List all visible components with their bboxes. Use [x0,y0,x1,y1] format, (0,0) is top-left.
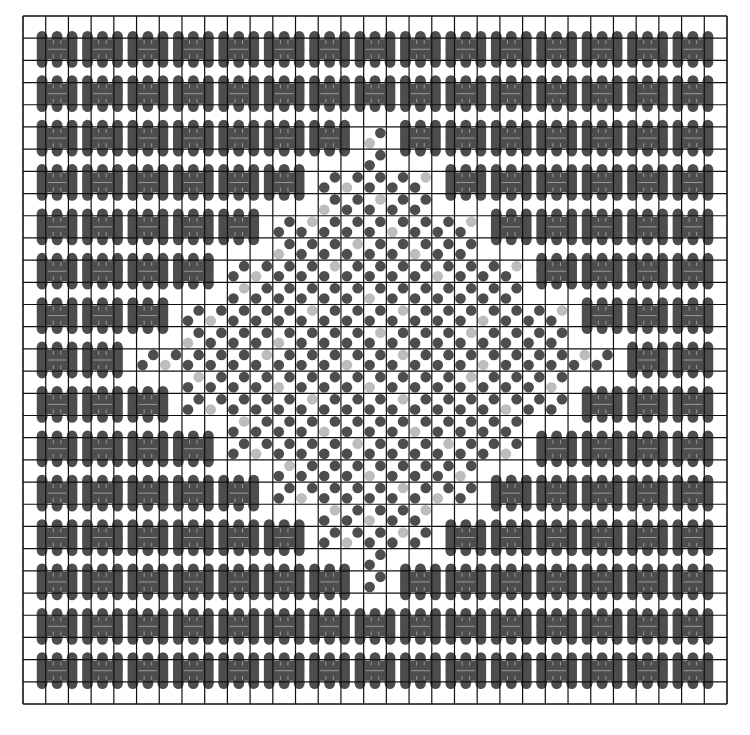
grid-cell[interactable] [159,482,182,504]
grid-cell[interactable] [409,482,432,504]
grid-cell[interactable] [227,438,250,460]
grid-cell[interactable] [114,38,137,60]
grid-cell[interactable] [591,349,614,371]
grid-cell[interactable] [568,260,591,282]
grid-cell[interactable] [296,305,319,327]
grid-cell[interactable] [500,549,523,571]
grid-cell[interactable] [318,127,341,149]
grid-cell[interactable] [46,105,69,127]
grid-cell[interactable] [68,682,91,704]
grid-cell[interactable] [318,327,341,349]
grid-cell[interactable] [682,504,705,526]
grid-cell[interactable] [682,194,705,216]
grid-cell[interactable] [182,216,205,238]
grid-cell[interactable] [114,127,137,149]
grid-cell[interactable] [68,327,91,349]
grid-cell[interactable] [318,682,341,704]
grid-cell[interactable] [114,60,137,82]
grid-cell[interactable] [523,438,546,460]
grid-cell[interactable] [273,16,296,38]
grid-cell[interactable] [500,415,523,437]
grid-cell[interactable] [273,105,296,127]
grid-cell[interactable] [523,216,546,238]
grid-cell[interactable] [477,615,500,637]
grid-cell[interactable] [432,549,455,571]
grid-cell[interactable] [659,305,682,327]
grid-cell[interactable] [296,549,319,571]
grid-cell[interactable] [318,260,341,282]
grid-cell[interactable] [68,549,91,571]
grid-cell[interactable] [682,482,705,504]
grid-cell[interactable] [23,83,46,105]
grid-cell[interactable] [568,16,591,38]
grid-cell[interactable] [477,305,500,327]
grid-cell[interactable] [704,305,727,327]
grid-cell[interactable] [159,60,182,82]
grid-cell[interactable] [364,371,387,393]
grid-cell[interactable] [205,371,228,393]
grid-cell[interactable] [205,438,228,460]
grid-cell[interactable] [613,571,636,593]
grid-cell[interactable] [613,83,636,105]
grid-cell[interactable] [659,637,682,659]
grid-cell[interactable] [91,349,114,371]
grid-cell[interactable] [613,105,636,127]
grid-cell[interactable] [477,282,500,304]
grid-cell[interactable] [523,171,546,193]
grid-cell[interactable] [182,194,205,216]
grid-cell[interactable] [523,238,546,260]
grid-cell[interactable] [68,171,91,193]
grid-cell[interactable] [341,171,364,193]
grid-cell[interactable] [23,438,46,460]
grid-cell[interactable] [23,38,46,60]
grid-cell[interactable] [68,105,91,127]
grid-cell[interactable] [613,415,636,437]
grid-cell[interactable] [227,216,250,238]
grid-cell[interactable] [704,460,727,482]
grid-cell[interactable] [500,60,523,82]
grid-cell[interactable] [409,216,432,238]
grid-cell[interactable] [91,105,114,127]
grid-cell[interactable] [591,682,614,704]
grid-cell[interactable] [659,504,682,526]
grid-cell[interactable] [23,216,46,238]
grid-cell[interactable] [46,216,69,238]
grid-cell[interactable] [68,660,91,682]
grid-cell[interactable] [91,149,114,171]
grid-cell[interactable] [409,615,432,637]
grid-cell[interactable] [704,216,727,238]
grid-cell[interactable] [613,16,636,38]
grid-cell[interactable] [273,526,296,548]
grid-cell[interactable] [613,526,636,548]
grid-cell[interactable] [523,504,546,526]
grid-cell[interactable] [636,460,659,482]
grid-cell[interactable] [364,460,387,482]
grid-cell[interactable] [432,171,455,193]
grid-cell[interactable] [591,371,614,393]
grid-cell[interactable] [296,194,319,216]
grid-cell[interactable] [137,83,160,105]
grid-cell[interactable] [477,504,500,526]
grid-cell[interactable] [318,460,341,482]
grid-cell[interactable] [523,38,546,60]
grid-cell[interactable] [682,660,705,682]
grid-cell[interactable] [409,327,432,349]
grid-cell[interactable] [636,60,659,82]
grid-cell[interactable] [568,83,591,105]
grid-cell[interactable] [523,282,546,304]
grid-cell[interactable] [250,482,273,504]
grid-cell[interactable] [545,615,568,637]
grid-cell[interactable] [682,127,705,149]
grid-cell[interactable] [182,660,205,682]
grid-cell[interactable] [341,593,364,615]
grid-cell[interactable] [386,482,409,504]
grid-cell[interactable] [23,371,46,393]
grid-cell[interactable] [250,526,273,548]
grid-cell[interactable] [454,127,477,149]
grid-cell[interactable] [682,415,705,437]
grid-cell[interactable] [659,16,682,38]
grid-cell[interactable] [23,260,46,282]
grid-cell[interactable] [432,38,455,60]
grid-cell[interactable] [682,260,705,282]
grid-cell[interactable] [432,504,455,526]
